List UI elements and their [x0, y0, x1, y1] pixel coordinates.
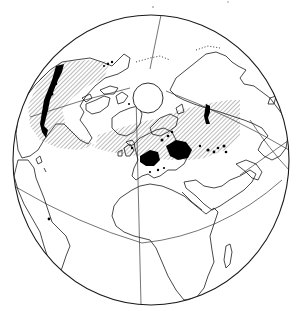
speck	[152, 6, 153, 7]
map-container	[0, 0, 298, 311]
north-pole-circle	[133, 83, 163, 113]
speck	[227, 1, 228, 2]
map-svg	[0, 0, 298, 311]
